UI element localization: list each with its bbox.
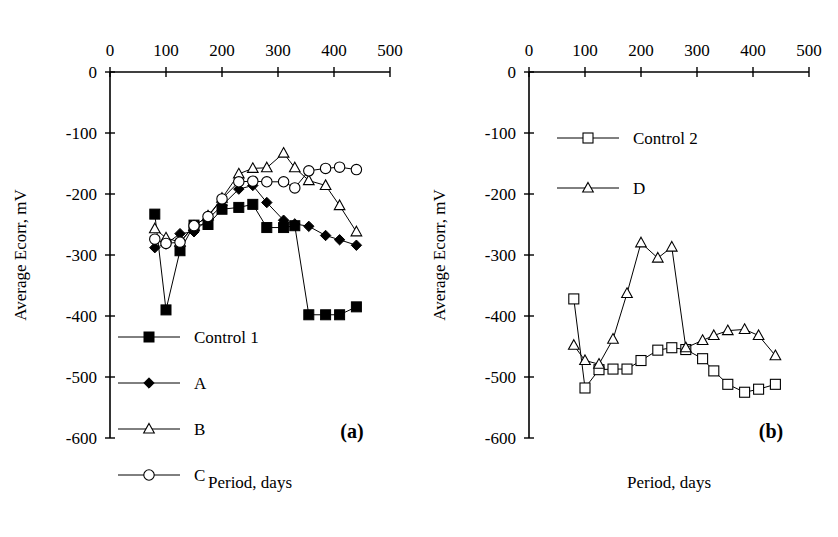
legend-item-control-1: Control 1 xyxy=(118,328,259,347)
legend-marker-filled-square xyxy=(144,332,154,342)
data-point xyxy=(335,310,345,320)
chart-panel-a: 01002003004005000-100-200-300-400-500-60… xyxy=(0,0,419,537)
legend-item-b: B xyxy=(118,420,205,439)
y-tick-label: -600 xyxy=(66,429,97,448)
legend-marker-open-circle xyxy=(144,470,154,480)
data-point xyxy=(709,366,719,376)
y-tick-label: -300 xyxy=(66,246,97,265)
x-tick-label: 100 xyxy=(153,41,179,60)
data-point xyxy=(334,162,344,172)
data-point xyxy=(189,221,199,231)
data-point xyxy=(203,211,213,221)
data-point xyxy=(247,163,258,173)
legend-label: Control 1 xyxy=(194,328,259,347)
chart-svg-b: 01002003004005000-100-200-300-400-500-60… xyxy=(419,0,838,537)
data-point xyxy=(248,176,258,186)
data-point xyxy=(608,364,618,374)
y-tick-label: -500 xyxy=(485,368,516,387)
series-control-2 xyxy=(569,294,781,397)
data-point xyxy=(770,379,780,389)
y-axis-title: Average Ecorr, mV xyxy=(430,188,449,320)
data-point xyxy=(666,241,677,251)
x-tick-label: 0 xyxy=(106,41,115,60)
data-point xyxy=(723,379,733,389)
y-tick-label: 0 xyxy=(508,63,517,82)
data-point xyxy=(320,163,330,173)
data-point xyxy=(334,200,345,210)
data-point xyxy=(622,288,633,298)
y-tick-label: -200 xyxy=(485,185,516,204)
y-tick-label: -100 xyxy=(485,124,516,143)
data-point xyxy=(278,177,288,187)
y-tick-label: 0 xyxy=(89,63,98,82)
data-point xyxy=(653,345,663,355)
data-point xyxy=(351,240,361,250)
data-point xyxy=(234,177,244,187)
chart-svg-a: 01002003004005000-100-200-300-400-500-60… xyxy=(0,0,419,537)
data-point xyxy=(636,237,647,247)
x-tick-label: 200 xyxy=(209,41,235,60)
x-axis-title: Period, days xyxy=(627,473,711,492)
data-point xyxy=(698,354,708,364)
data-point xyxy=(351,164,361,174)
data-point xyxy=(667,343,677,353)
y-tick-label: -500 xyxy=(66,368,97,387)
data-point xyxy=(569,294,579,304)
x-tick-label: 300 xyxy=(684,41,710,60)
data-point xyxy=(304,221,314,231)
legend-marker-open-triangle xyxy=(583,182,594,192)
series-path xyxy=(155,204,357,314)
data-point xyxy=(304,310,314,320)
data-point xyxy=(161,238,171,248)
data-point xyxy=(150,234,160,244)
data-point xyxy=(161,305,171,315)
data-point xyxy=(149,223,160,233)
x-tick-label: 400 xyxy=(321,41,347,60)
legend-marker-open-square xyxy=(583,133,593,143)
data-point xyxy=(568,340,579,350)
data-point xyxy=(217,194,227,204)
legend-label: B xyxy=(194,420,205,439)
panel-label: (a) xyxy=(340,420,363,443)
data-point xyxy=(697,335,708,345)
data-point xyxy=(652,252,663,262)
y-tick-label: -300 xyxy=(485,246,516,265)
data-point xyxy=(234,202,244,212)
x-tick-label: 400 xyxy=(740,41,766,60)
data-point xyxy=(754,384,764,394)
chart-panel-b: 01002003004005000-100-200-300-400-500-60… xyxy=(419,0,838,537)
data-point xyxy=(622,364,632,374)
data-point xyxy=(150,209,160,219)
data-point xyxy=(262,177,272,187)
x-axis-title: Period, days xyxy=(208,473,292,492)
data-point xyxy=(739,324,750,334)
legend-label: Control 2 xyxy=(633,129,698,148)
legend-item-c: C xyxy=(118,466,205,485)
legend-label: A xyxy=(194,374,207,393)
data-point xyxy=(351,226,362,236)
y-tick-label: -200 xyxy=(66,185,97,204)
y-tick-label: -400 xyxy=(485,307,516,326)
data-point xyxy=(248,199,258,209)
data-point xyxy=(175,237,185,247)
data-point xyxy=(351,302,361,312)
x-tick-label: 500 xyxy=(796,41,822,60)
data-point xyxy=(320,230,330,240)
data-point xyxy=(321,310,331,320)
legend: Control 2D xyxy=(557,129,698,198)
legend-item-a: A xyxy=(118,374,207,393)
y-tick-label: -400 xyxy=(66,307,97,326)
data-point xyxy=(753,330,764,340)
x-tick-label: 100 xyxy=(572,41,598,60)
x-tick-label: 300 xyxy=(265,41,291,60)
y-axis-title: Average Ecorr, mV xyxy=(11,188,30,320)
panel-label: (b) xyxy=(759,420,783,443)
series-control-1 xyxy=(150,199,362,319)
data-point xyxy=(334,235,344,245)
legend-label: C xyxy=(194,466,205,485)
x-tick-label: 500 xyxy=(377,41,403,60)
legend-marker-filled-diamond xyxy=(144,378,154,388)
legend-label: D xyxy=(633,179,645,198)
data-point xyxy=(262,223,272,233)
x-tick-label: 0 xyxy=(525,41,534,60)
